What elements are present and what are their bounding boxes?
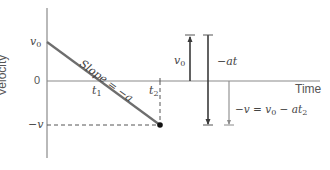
y-tick-neg-v: −v	[28, 119, 43, 130]
x-tick-t2: t2	[149, 85, 159, 98]
velocity-time-diagram	[0, 0, 330, 170]
y-tick-zero: 0	[34, 75, 40, 86]
x-tick-t1: t1	[92, 85, 102, 98]
neg-v-arrowhead-icon	[227, 120, 231, 125]
neg-at-arrowhead-icon	[206, 119, 211, 125]
y-tick-v0: v0	[30, 36, 41, 49]
y-axis-label: Velocity	[0, 55, 8, 96]
v0-arrowhead-icon	[188, 36, 193, 42]
neg-at-label: −at	[217, 56, 237, 67]
v0-vector-label: v0	[174, 55, 185, 68]
equation-label: −v = v0 − at2	[235, 104, 307, 117]
x-axis-label: Time	[295, 83, 321, 95]
endpoint-dot	[157, 122, 163, 128]
